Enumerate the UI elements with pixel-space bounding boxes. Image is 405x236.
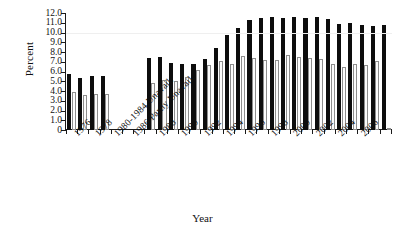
bar-group [292,13,302,130]
y-tick-label: 8.0 [32,48,62,57]
bar-dark [225,35,229,130]
bar-light [263,60,267,130]
bar-group [303,13,313,130]
bar-group [191,13,201,130]
bar-group [348,13,358,130]
bar-group [101,13,111,130]
bar-group [382,13,392,130]
y-tick-label: 7.0 [32,57,62,66]
bar-group [259,13,269,130]
bar-series-container [66,13,392,130]
bar-group [337,13,347,130]
bar-light [308,58,312,130]
bar-dark [315,17,319,130]
bar-group [67,13,77,130]
y-tick-label: 9.0 [32,38,62,47]
bar-group [281,13,291,130]
bar-group [90,13,100,130]
bar-group [225,13,235,130]
y-tick-label: 4.0 [32,87,62,96]
bar-dark [203,59,207,130]
y-axis-tick-labels: 12.011.010.09.08.07.06.05.04.03.02.01.00 [30,0,62,236]
plot-area [65,13,392,130]
bar-dark [348,23,352,130]
y-tick-label: 1.0 [32,116,62,125]
bar-light [252,58,256,130]
bar-dark [247,20,251,130]
bar-dark [270,17,274,130]
bar-light [241,56,245,130]
bar-group [371,13,381,130]
bar-light [207,65,211,130]
bar-dark [303,18,307,130]
bar-light [319,59,323,130]
bar-dark [337,24,341,130]
x-axis-tick-labels: 197619781980-1984 Unavail.1986 Partly Un… [65,131,405,211]
bar-group [236,13,246,130]
bar-light [364,65,368,130]
bar-dark [281,18,285,130]
bar-group [169,13,179,130]
bar-group [360,13,370,130]
bar-light [275,60,279,130]
y-tick-label: 6.0 [32,67,62,76]
bar-dark [67,74,71,130]
bar-group [214,13,224,130]
bar-dark [360,25,364,130]
bar-dark [382,25,386,130]
bar-group [326,13,336,130]
bar-dark [259,18,263,130]
bar-group [315,13,325,130]
bar-dark [236,28,240,130]
bar-group [78,13,88,130]
bar-light [297,57,301,130]
y-tick-label: 3.0 [32,96,62,105]
bar-dark [292,17,296,130]
gridline [66,33,392,34]
y-tick-label: 5.0 [32,77,62,86]
bar-group [203,13,213,130]
y-tick-label: 0 [32,126,62,135]
bar-group [247,13,257,130]
bar-light [387,128,391,130]
bar-chart: Percent 12.011.010.09.08.07.06.05.04.03.… [0,0,405,236]
bar-light [72,92,76,130]
y-tick-label: 10.0 [32,28,62,37]
y-tick-label: 2.0 [32,106,62,115]
y-tick-label: 11.0 [32,18,62,27]
bar-dark [180,64,184,130]
x-axis-title: Year [0,212,405,224]
bar-group [270,13,280,130]
y-tick-label: 12.0 [32,9,62,18]
bar-light [286,55,290,130]
bar-dark [371,26,375,130]
bar-dark [326,19,330,130]
